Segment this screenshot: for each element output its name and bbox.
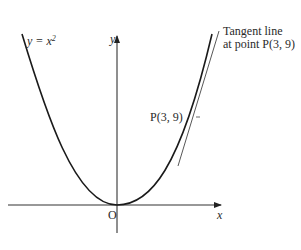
y-axis-label: y (110, 33, 115, 46)
point-p-label: P(3, 9) (150, 111, 183, 124)
tangent-label: Tangent line at point P(3, 9) (223, 25, 295, 51)
tangent-label-line2: at point P(3, 9) (223, 38, 295, 51)
curve-label-exponent: 2 (52, 34, 56, 43)
x-axis-label: x (217, 209, 222, 222)
tangent-line-diagram: y = x2 y x O P(3, 9) Tangent line at poi… (0, 0, 301, 250)
origin-label: O (108, 209, 117, 222)
tangent-line (178, 31, 219, 166)
curve-label: y = x2 (27, 35, 56, 48)
curve-label-text: y = x (27, 34, 52, 48)
